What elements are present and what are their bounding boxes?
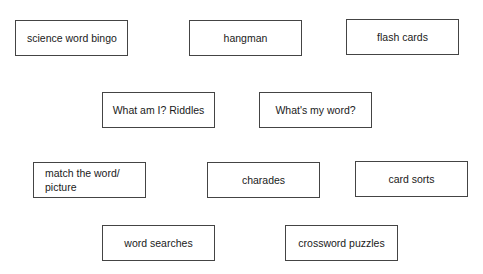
activity-box-science-word-bingo: science word bingo <box>15 20 128 56</box>
activity-box-charades: charades <box>207 162 320 198</box>
activity-label: charades <box>242 173 285 187</box>
activity-box-card-sorts: card sorts <box>355 161 468 197</box>
activity-label: flash cards <box>377 30 428 44</box>
activity-box-crossword-puzzles: crossword puzzles <box>285 225 398 261</box>
activity-label: word searches <box>124 236 192 250</box>
activity-label: What's my word? <box>275 103 355 117</box>
activity-box-hangman: hangman <box>189 20 302 56</box>
activity-label: science word bingo <box>27 31 117 45</box>
activity-box-word-searches: word searches <box>102 225 215 261</box>
activity-label: card sorts <box>388 172 434 186</box>
activity-label: hangman <box>224 31 268 45</box>
activity-box-whats-my-word: What's my word? <box>259 92 372 128</box>
activity-box-riddles: What am I? Riddles <box>102 92 215 128</box>
activity-box-flash-cards: flash cards <box>346 19 459 55</box>
activity-label: match the word/ picture <box>45 166 120 194</box>
activity-box-match-the-word-picture: match the word/ picture <box>33 162 146 198</box>
activity-label: crossword puzzles <box>298 236 384 250</box>
activity-label: What am I? Riddles <box>113 103 205 117</box>
